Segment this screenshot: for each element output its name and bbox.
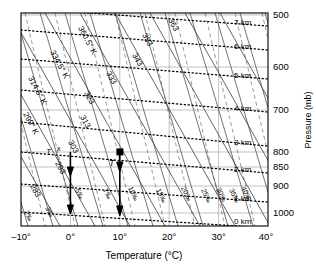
- altitude-label-4km: 4 km: [234, 104, 252, 113]
- altitude-label-0km: 0 km: [234, 217, 252, 226]
- pressure-tick-800: 800: [273, 146, 289, 157]
- skewt-diagram: T x T 360.5° K 334.5° K 314.5° K 299° K …: [0, 0, 316, 264]
- parcel-point-marker[interactable]: [116, 148, 123, 155]
- temp-tick-30: 30°: [211, 231, 226, 242]
- x-axis-title: Temperature (°C): [106, 250, 183, 261]
- temp-tick-40: 40°: [259, 231, 274, 242]
- altitude-label-1km: 1 km: [234, 194, 252, 203]
- temp-tick-neg10: –10°: [11, 231, 31, 242]
- altitude-label-3km: 3 km: [234, 138, 252, 147]
- y-axis-title: Pressure (mb): [303, 91, 313, 148]
- temp-tick-0: 0°: [66, 231, 75, 242]
- altitude-label-5km: 5 km: [234, 71, 252, 80]
- pressure-tick-700: 700: [273, 104, 289, 115]
- pressure-tick-600: 600: [273, 61, 289, 72]
- pressure-tick-850: 850: [273, 161, 289, 172]
- temp-tick-20: 20°: [162, 231, 177, 242]
- pressure-tick-900: 900: [273, 180, 289, 191]
- pressure-tick-1000: 1000: [273, 207, 294, 218]
- background: [0, 0, 316, 264]
- figure-canvas: T x T 360.5° K 334.5° K 314.5° K 299° K …: [0, 0, 316, 264]
- dew-point-cross-icon: x: [57, 145, 61, 152]
- temp-tick-10: 10°: [113, 231, 128, 242]
- altitude-label-6km: 6 km: [234, 42, 252, 51]
- altitude-label-2km: 2 km: [234, 165, 252, 174]
- pressure-tick-500: 500: [273, 9, 289, 20]
- altitude-label-7km: 7 km: [234, 18, 252, 27]
